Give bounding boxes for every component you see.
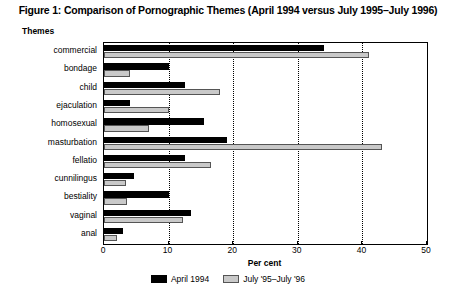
bar-row — [104, 43, 427, 61]
x-axis-tickmark — [361, 241, 362, 245]
bar-bondage-series-0 — [104, 63, 169, 69]
bar-row — [104, 134, 427, 152]
bar-homosexual-series-0 — [104, 118, 204, 124]
bar-child-series-0 — [104, 82, 185, 88]
x-axis-tick-30: 30 — [292, 245, 301, 255]
bar-group — [104, 43, 427, 244]
bar-bestiality-series-0 — [104, 191, 169, 197]
category-label-commercial: commercial — [0, 46, 97, 55]
x-axis-label: Per cent — [103, 258, 426, 268]
legend-item-april-1994: April 1994 — [151, 274, 209, 284]
bar-fellatio-series-1 — [104, 162, 211, 168]
bar-commercial-series-0 — [104, 45, 324, 51]
legend-label: April 1994 — [171, 274, 209, 284]
category-label-bondage: bondage — [0, 64, 97, 73]
bar-anal-series-0 — [104, 228, 123, 234]
x-axis-tick-10: 10 — [163, 245, 172, 255]
bar-homosexual-series-1 — [104, 125, 149, 131]
bar-row — [104, 153, 427, 171]
legend-swatch-icon — [223, 275, 239, 283]
x-axis-tickmark — [168, 241, 169, 245]
category-label-bestiality: bestiality — [0, 192, 97, 201]
bar-row — [104, 80, 427, 98]
x-axis-tick-list: 01020304050 — [103, 245, 426, 257]
category-label-list: commercialbondagechildejaculationhomosex… — [0, 42, 100, 243]
bar-cunnilingus-series-0 — [104, 173, 134, 179]
bar-row — [104, 116, 427, 134]
legend-label: July '95–July '96 — [243, 274, 305, 284]
bar-row — [104, 61, 427, 79]
bar-row — [104, 226, 427, 244]
legend-item-july-95-july-96: July '95–July '96 — [223, 274, 305, 284]
chart-legend: April 1994 July '95–July '96 — [0, 274, 456, 284]
x-axis-tickmark — [232, 241, 233, 245]
category-label-fellatio: fellatio — [0, 156, 97, 165]
x-axis-tick-20: 20 — [227, 245, 236, 255]
x-axis-tickmark — [297, 241, 298, 245]
category-label-child: child — [0, 83, 97, 92]
figure-title: Figure 1: Comparison of Pornographic The… — [0, 4, 456, 17]
bar-fellatio-series-0 — [104, 155, 185, 161]
x-axis-tick-40: 40 — [357, 245, 366, 255]
bar-ejaculation-series-0 — [104, 100, 130, 106]
category-label-masturbation: masturbation — [0, 138, 97, 147]
bar-masturbation-series-0 — [104, 137, 227, 143]
bar-bondage-series-1 — [104, 70, 130, 76]
category-label-vaginal: vaginal — [0, 211, 97, 220]
bar-commercial-series-1 — [104, 52, 369, 58]
figure-container: Figure 1: Comparison of Pornographic The… — [0, 0, 456, 295]
category-label-anal: anal — [0, 229, 97, 238]
category-label-homosexual: homosexual — [0, 119, 97, 128]
bar-bestiality-series-1 — [104, 198, 127, 204]
bar-child-series-1 — [104, 89, 220, 95]
category-label-cunnilingus: cunnilingus — [0, 174, 97, 183]
bar-ejaculation-series-1 — [104, 107, 169, 113]
x-axis-tickmark — [103, 241, 104, 245]
bar-row — [104, 189, 427, 207]
y-axis-label: Themes — [22, 26, 54, 36]
legend-swatch-icon — [151, 275, 167, 283]
category-label-ejaculation: ejaculation — [0, 101, 97, 110]
x-axis-tick-50: 50 — [421, 245, 430, 255]
plot-area — [103, 42, 428, 245]
x-axis-tick-0: 0 — [101, 245, 106, 255]
bar-row — [104, 207, 427, 225]
bar-vaginal-series-1 — [104, 217, 183, 223]
bar-masturbation-series-1 — [104, 144, 382, 150]
bar-row — [104, 98, 427, 116]
bar-anal-series-1 — [104, 235, 117, 241]
bar-row — [104, 171, 427, 189]
bar-cunnilingus-series-1 — [104, 180, 126, 186]
bar-vaginal-series-0 — [104, 210, 191, 216]
x-axis-tickmark — [426, 241, 427, 245]
